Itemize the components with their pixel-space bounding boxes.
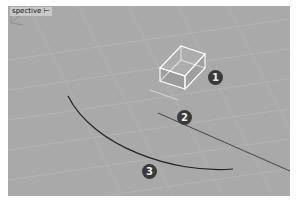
arc-curve <box>68 96 233 170</box>
viewport-title: spective <box>12 7 41 15</box>
viewport-menu-caret-icon[interactable]: ⊢ <box>43 7 49 15</box>
viewport-title-menu[interactable]: spective⊢ <box>10 7 52 16</box>
callout-badge-3: 3 <box>142 164 157 179</box>
callout-badge-1: 1 <box>208 70 223 85</box>
perspective-viewport[interactable]: spective⊢ 1 2 3 <box>8 6 290 196</box>
callout-badge-2: 2 <box>177 110 192 125</box>
box-object <box>160 46 205 89</box>
